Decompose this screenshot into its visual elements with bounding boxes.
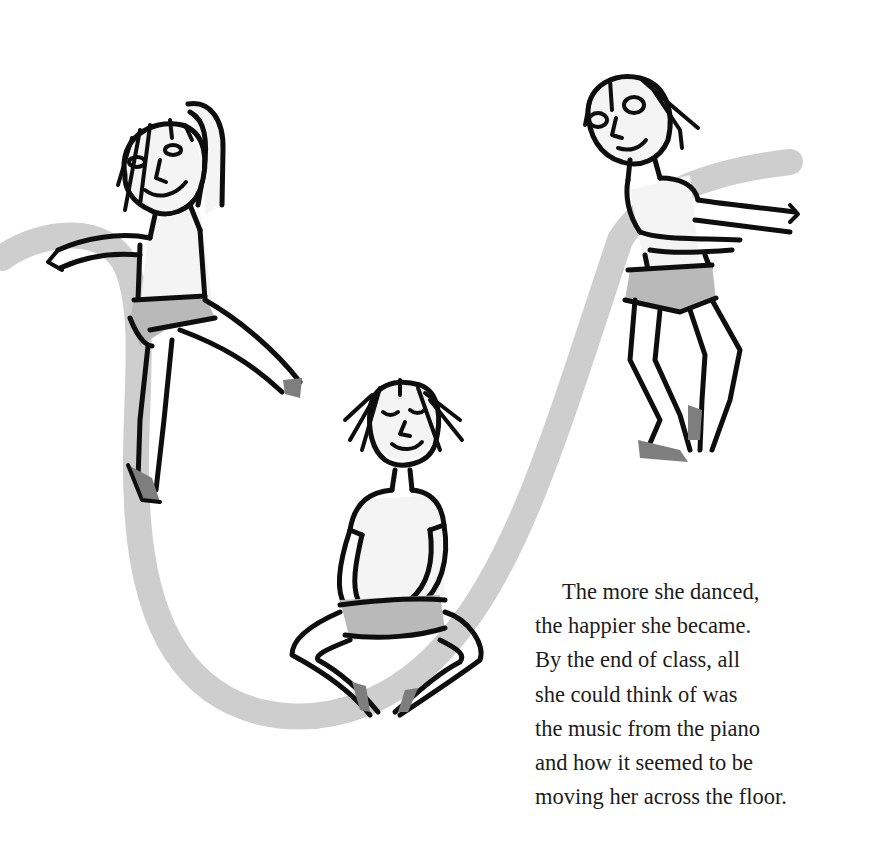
story-line: By the end of class, all bbox=[535, 643, 855, 677]
story-line: The more she danced, bbox=[535, 575, 855, 609]
story-line: and how it seemed to be bbox=[535, 746, 855, 780]
story-line: the happier she became. bbox=[535, 609, 855, 643]
leaping-dancer bbox=[48, 103, 302, 502]
story-text: The more she danced, the happier she bec… bbox=[535, 575, 855, 814]
story-line: moving her across the floor. bbox=[535, 780, 855, 814]
story-line: she could think of was bbox=[535, 678, 855, 712]
story-line: the music from the piano bbox=[535, 712, 855, 746]
seated-dancer bbox=[292, 380, 481, 715]
book-page: The more she danced, the happier she bec… bbox=[0, 0, 872, 865]
